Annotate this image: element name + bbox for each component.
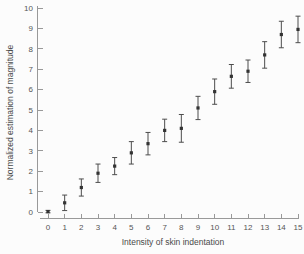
data-point — [180, 127, 183, 130]
x-tick-label: 11 — [227, 223, 236, 232]
x-tick-label: 1 — [62, 223, 67, 232]
scatter-plot-canvas: 0123456789100123456789101112131415 — [0, 0, 304, 254]
y-tick-label: 10 — [24, 4, 33, 13]
data-point — [113, 165, 116, 168]
x-tick-label: 4 — [112, 223, 117, 232]
x-tick-label: 14 — [277, 223, 286, 232]
data-point — [263, 53, 266, 56]
x-tick-label: 0 — [46, 223, 51, 232]
x-tick-label: 5 — [129, 223, 134, 232]
y-tick-label: 6 — [29, 85, 34, 94]
y-tick-label: 4 — [29, 126, 34, 135]
y-tick-label: 5 — [29, 106, 34, 115]
data-point — [280, 33, 283, 36]
data-point — [213, 90, 216, 93]
x-axis-title: Intensity of skin indentation — [48, 237, 298, 248]
scatter-plot-figure: 0123456789100123456789101112131415 Norma… — [0, 0, 304, 254]
x-tick-label: 7 — [162, 223, 167, 232]
x-tick-label: 13 — [260, 223, 269, 232]
data-point — [196, 106, 199, 109]
y-tick-label: 3 — [29, 147, 34, 156]
x-tick-label: 10 — [210, 223, 219, 232]
y-tick-label: 8 — [29, 45, 34, 54]
data-point — [130, 151, 133, 154]
x-tick-label: 2 — [79, 223, 84, 232]
x-tick-label: 15 — [294, 223, 303, 232]
y-tick-label: 0 — [29, 208, 34, 217]
data-point — [230, 75, 233, 78]
y-tick-label: 9 — [29, 24, 34, 33]
y-tick-label: 2 — [29, 167, 34, 176]
data-point — [146, 142, 149, 145]
data-point — [46, 210, 49, 213]
data-point — [80, 186, 83, 189]
x-tick-label: 3 — [96, 223, 101, 232]
data-point — [163, 129, 166, 132]
data-point — [96, 172, 99, 175]
data-point — [296, 28, 299, 31]
x-tick-label: 6 — [146, 223, 151, 232]
x-tick-label: 12 — [244, 223, 253, 232]
y-axis-title: Normalized estimation of magnitude — [5, 7, 16, 219]
x-tick-label: 9 — [196, 223, 201, 232]
y-tick-label: 1 — [29, 187, 34, 196]
data-point — [246, 70, 249, 73]
data-point — [63, 201, 66, 204]
y-tick-label: 7 — [29, 65, 34, 74]
x-tick-label: 8 — [179, 223, 184, 232]
